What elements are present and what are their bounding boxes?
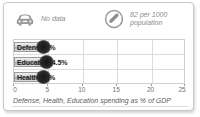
plot-area: Defense 4% Education 4.5% Health 4.1% [13, 39, 185, 84]
bar-row-education: Education 4.5% [14, 55, 184, 70]
marker-blot [36, 70, 51, 84]
telephones-value: 82 per 1000 population [130, 11, 167, 27]
spending-bar-chart: Defense 4% Education 4.5% Health 4.1% [13, 39, 185, 84]
bar-row-defense: Defense 4% [14, 40, 184, 55]
vehicles-indicator: No data [14, 8, 66, 30]
chart-caption: Defense, Health, Education spending as %… [13, 96, 191, 105]
vehicles-value: No data [41, 15, 66, 23]
telephones-indicator: 82 per 1000 population [103, 8, 167, 30]
bar-row-health: Health 4.1% [14, 70, 184, 85]
axis-tick-label: 20 [147, 86, 154, 93]
axis-tick-label: 25 [178, 86, 185, 93]
telephone-icon [103, 8, 125, 30]
axis-tick-label: 15 [113, 86, 120, 93]
marker-blot [39, 55, 54, 69]
x-axis: 0 5 10 15 20 25 [13, 84, 185, 94]
marker-blot [36, 40, 51, 54]
country-statistics-panel: No data 82 per 1000 population Defense 4… [3, 2, 194, 111]
caption-divider [12, 106, 188, 107]
axis-tick-label: 5 [46, 86, 50, 93]
car-icon [14, 8, 36, 30]
axis-tick-label: 0 [13, 86, 17, 93]
indicator-header: No data 82 per 1000 population [4, 3, 193, 37]
axis-tick-label: 10 [78, 86, 85, 93]
